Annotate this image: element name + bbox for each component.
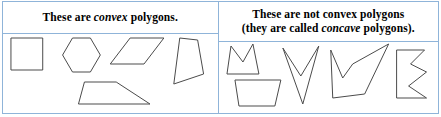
shape-checkmark — [330, 44, 388, 98]
convex-header-text-after: polygons. — [128, 11, 178, 23]
convex-header: These are convex polygons. — [3, 2, 218, 34]
concave-header-line1: These are not convex polygons — [219, 7, 439, 21]
table-cell-concave: These are not convex polygons (they are … — [219, 2, 439, 113]
concave-header: These are not convex polygons (they are … — [219, 2, 439, 42]
concave-header-emphasis: concave — [322, 22, 361, 34]
concave-shapes-area — [219, 42, 439, 113]
convex-header-emphasis: convex — [94, 11, 128, 23]
shape-bowl — [234, 80, 280, 106]
concave-header-text-before: (they are called — [242, 22, 322, 34]
concave-header-line2: (they are called concave polygons). — [219, 21, 439, 35]
comparison-table: These are convex polygons. These are not… — [2, 1, 439, 114]
shape-trapezoid — [78, 82, 150, 104]
concave-shapes-svg — [219, 42, 439, 113]
convex-header-text-before: These are — [43, 11, 94, 23]
concave-header-text-after: polygons). — [361, 22, 415, 34]
table-cell-convex: These are convex polygons. — [3, 2, 219, 113]
shape-quadrilateral — [174, 38, 204, 84]
shape-hexagon — [63, 38, 101, 72]
convex-concave-polygons-figure: These are convex polygons. These are not… — [0, 0, 441, 117]
shape-crown-m — [226, 44, 258, 74]
convex-shapes-svg — [3, 34, 218, 113]
shape-parallelogram — [110, 38, 164, 64]
shape-zigzag-e — [396, 50, 426, 98]
shape-dart — [282, 46, 318, 104]
shape-square — [11, 38, 43, 70]
convex-shapes-area — [3, 34, 218, 113]
